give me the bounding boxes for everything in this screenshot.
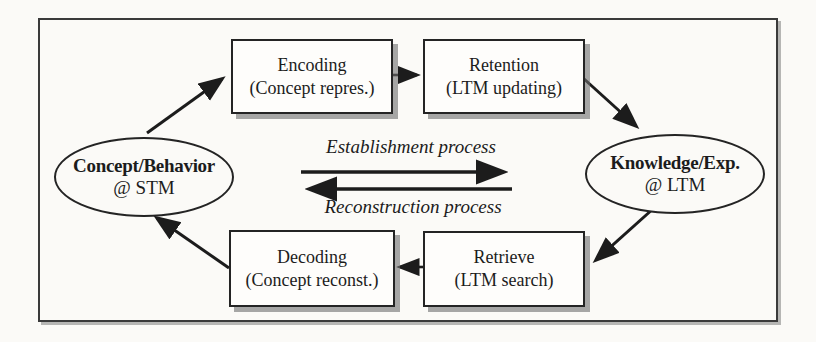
arrow-ltm-to-retrieve bbox=[596, 208, 654, 260]
node-encoding: Encoding (Concept repres.) bbox=[231, 39, 393, 114]
arrow-retention-to-ltm bbox=[583, 78, 636, 126]
node-decoding: Decoding (Concept reconst.) bbox=[229, 230, 395, 307]
arrow-decoding-to-stm bbox=[157, 218, 229, 268]
node-decoding-title: Decoding bbox=[277, 246, 347, 269]
establishment-process-label: Establishment process bbox=[296, 136, 526, 158]
node-decoding-subtitle: (Concept reconst.) bbox=[246, 269, 379, 292]
node-ltm-title: Knowledge/Exp. bbox=[610, 152, 739, 174]
node-retention-subtitle: (LTM updating) bbox=[446, 77, 562, 100]
reconstruction-process-label: Reconstruction process bbox=[298, 196, 528, 218]
node-stm-subtitle: @ STM bbox=[113, 177, 174, 199]
node-retention-title: Retention bbox=[469, 54, 539, 77]
node-retention: Retention (LTM updating) bbox=[423, 39, 585, 114]
node-retrieve-subtitle: (LTM search) bbox=[455, 269, 554, 292]
node-ltm-ellipse: Knowledge/Exp. @ LTM bbox=[585, 134, 765, 214]
node-stm-title: Concept/Behavior bbox=[73, 155, 215, 177]
node-retrieve-title: Retrieve bbox=[474, 246, 535, 269]
node-stm-ellipse: Concept/Behavior @ STM bbox=[54, 137, 234, 217]
arrow-stm-to-encoding bbox=[147, 79, 222, 133]
node-ltm-subtitle: @ LTM bbox=[645, 174, 706, 196]
diagram-canvas: Encoding (Concept repres.) Retention (LT… bbox=[0, 0, 816, 342]
node-encoding-subtitle: (Concept repres.) bbox=[250, 77, 375, 100]
node-encoding-title: Encoding bbox=[278, 54, 347, 77]
node-retrieve: Retrieve (LTM search) bbox=[423, 231, 585, 307]
